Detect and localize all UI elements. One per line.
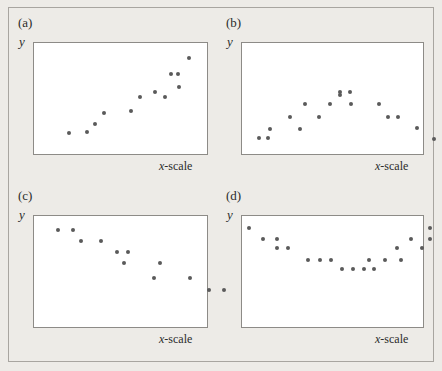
data-point [399,258,403,262]
data-point [377,102,381,106]
panel-d-x-axis-label: x-scale [375,332,408,347]
data-point [362,267,366,271]
data-point [420,246,424,250]
data-point [409,237,413,241]
data-point [318,258,322,262]
data-point [275,246,279,250]
data-point [329,258,333,262]
panel-c-x-axis-label: x-scale [159,332,192,347]
data-point [415,126,419,130]
scatterplot-figure: (a) y x-scale (b) y x-scale (c) y x-scal… [0,0,442,371]
panel-c-plot-area [33,215,208,328]
data-point [328,102,332,106]
data-point [396,115,400,119]
panel-a-plot-area [33,42,208,155]
data-point [268,127,272,131]
panel-a-label: (a) [18,15,32,31]
panel-b-y-axis-label: y [227,34,233,50]
data-point [275,237,279,241]
data-point [153,90,157,94]
panel-c: (c) y x-scale [14,186,221,358]
panel-a: (a) y x-scale [14,13,221,185]
data-point [152,276,156,280]
panel-d-y-axis-label: y [227,207,233,223]
data-point [288,115,292,119]
panel-b: (b) y x-scale [222,13,429,185]
data-point [176,72,180,76]
data-point [115,250,119,254]
data-point [386,115,390,119]
data-point [428,237,432,241]
data-point [158,261,162,265]
data-point [122,261,126,265]
panel-b-label: (b) [226,15,241,31]
panel-c-label: (c) [18,188,32,204]
data-point [432,137,436,141]
data-point [257,136,261,140]
data-point [67,131,71,135]
data-point [207,288,211,292]
data-point [286,246,290,250]
data-point [340,267,344,271]
data-point [56,228,60,232]
data-point [428,226,432,230]
data-point [138,95,142,99]
data-point [187,56,191,60]
data-point [79,239,83,243]
data-point [247,226,251,230]
data-point [298,127,302,131]
data-point [71,228,75,232]
data-point [177,85,181,89]
data-point [99,239,103,243]
data-point [383,258,387,262]
panel-b-plot-area [241,42,424,155]
data-point [129,109,133,113]
data-point [317,115,321,119]
data-point [351,267,355,271]
data-point [163,95,167,99]
data-point [266,136,270,140]
panel-b-x-axis-label: x-scale [375,159,408,174]
panel-c-y-axis-label: y [19,207,25,223]
panel-d-plot-area [241,215,424,328]
data-point [372,267,376,271]
data-point [349,102,353,106]
data-point [261,237,265,241]
panel-d-label: (d) [226,188,241,204]
panel-d: (d) y x-scale [222,186,429,358]
data-point [188,276,192,280]
data-point [93,122,97,126]
data-point [395,246,399,250]
data-point [367,258,371,262]
data-point [169,72,173,76]
data-point [126,250,130,254]
panel-a-x-axis-label: x-scale [159,159,192,174]
panel-a-y-axis-label: y [19,34,25,50]
data-point [348,90,352,94]
data-point [85,130,89,134]
data-point [102,111,106,115]
data-point [306,258,310,262]
data-point [303,102,307,106]
